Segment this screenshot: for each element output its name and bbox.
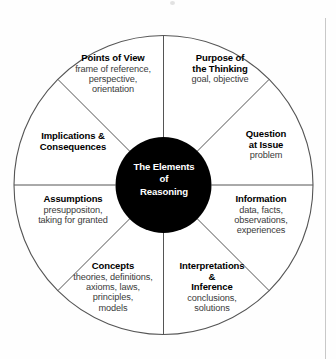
segment-question-heading-line-2: at Issue bbox=[216, 140, 316, 151]
segment-assumptions-body-line-1: presuppositon, bbox=[12, 205, 134, 215]
segment-assumptions: Assumptions presuppositon, taking for gr… bbox=[12, 194, 134, 225]
segment-information: Information data, facts, observations, e… bbox=[207, 194, 315, 236]
segment-information-heading-line-1: Information bbox=[207, 194, 315, 205]
segment-assumptions-body-line-2: taking for granted bbox=[12, 215, 134, 225]
hub-label-line-2: of bbox=[116, 173, 212, 185]
segment-purpose-heading-line-2: the Thinking bbox=[168, 64, 272, 75]
segment-interpretations-heading-line-3: Inference bbox=[160, 282, 264, 293]
segment-information-body-line-3: experiences bbox=[207, 225, 315, 235]
segment-purpose-of-the-thinking: Purpose of the Thinking goal, objective bbox=[168, 53, 272, 85]
segment-information-body-line-2: observations, bbox=[207, 215, 315, 225]
segment-information-body-line-1: data, facts, bbox=[207, 205, 315, 215]
segment-points-of-view-body-line-1: frame of reference, bbox=[54, 64, 172, 74]
hub-label: The Elements of Reasoning bbox=[116, 161, 212, 198]
segment-question-at-issue: Question at Issue problem bbox=[216, 129, 316, 161]
segment-concepts-body-line-2: axioms, laws, bbox=[58, 282, 168, 292]
hub-label-line-1: The Elements bbox=[116, 161, 212, 173]
segment-interpretations-and-inference: Interpretations & Inference conclusions,… bbox=[160, 261, 264, 313]
segment-points-of-view: Points of View frame of reference, persp… bbox=[54, 53, 172, 95]
segment-implications-heading-line-2: Consequences bbox=[16, 142, 130, 153]
segment-points-of-view-body-line-2: perspective, bbox=[54, 74, 172, 84]
segment-purpose-body-line-1: goal, objective bbox=[168, 74, 272, 84]
segment-concepts-heading-line-1: Concepts bbox=[58, 261, 168, 272]
segment-implications-and-consequences: Implications & Consequences bbox=[16, 131, 130, 152]
segment-interpretations-body-line-2: solutions bbox=[160, 303, 264, 313]
segment-assumptions-heading-line-1: Assumptions bbox=[12, 194, 134, 205]
elements-of-reasoning-figure: The Elements of Reasoning Points of View… bbox=[0, 0, 336, 359]
segment-points-of-view-heading-line-1: Points of View bbox=[54, 53, 172, 64]
segment-concepts: Concepts theories, definitions, axioms, … bbox=[58, 261, 168, 313]
segment-interpretations-body-line-1: conclusions, bbox=[160, 293, 264, 303]
segment-concepts-body-line-3: principles, bbox=[58, 292, 168, 302]
segment-question-body-line-1: problem bbox=[216, 150, 316, 160]
segment-points-of-view-body-line-3: orientation bbox=[54, 84, 172, 94]
segment-concepts-body-line-4: models bbox=[58, 303, 168, 313]
segment-concepts-body-line-1: theories, definitions, bbox=[58, 272, 168, 282]
